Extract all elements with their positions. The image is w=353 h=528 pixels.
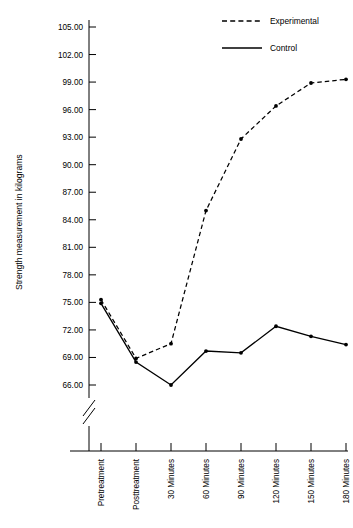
data-point-control [99,301,103,305]
series-layer [99,77,348,386]
y-axis-title-text: Strength measurement in kilograms [14,154,24,290]
y-tick-label: 90.00 [63,161,84,170]
data-point-control [309,334,313,338]
data-point-experimental [344,77,348,81]
data-point-control [204,349,208,353]
data-point-experimental [169,342,173,346]
series-line-experimental [101,79,346,358]
legend-label-experimental: Experimental [270,16,319,26]
y-tick-label: 78.00 [63,271,84,280]
legend-label-control: Control [270,43,297,53]
y-tick-label: 69.00 [63,353,84,362]
data-point-experimental [99,298,103,302]
data-point-experimental [274,104,278,108]
data-point-experimental [239,137,243,141]
x-tick-label: 120 Minutes [272,459,281,504]
y-tick-label: 96.00 [63,106,84,115]
x-tick-label: 60 Minutes [202,459,211,499]
x-tick-label: 90 Minutes [237,459,246,499]
x-axis-ticks: PretreatmentPosttreatment30 Minutes60 Mi… [97,443,351,510]
data-point-experimental [204,209,208,213]
y-tick-label: 87.00 [63,188,84,197]
series-line-control [101,303,346,385]
y-axis-title: Strength measurement in kilograms [14,154,24,290]
data-point-control [134,360,138,364]
data-point-control [344,343,348,347]
y-tick-label: 105.00 [58,23,83,32]
x-tick-label: Posttreatment [132,458,141,510]
y-tick-label: 93.00 [63,133,84,142]
y-tick-label: 75.00 [63,298,84,307]
y-axis-break-icon [83,400,95,424]
data-point-control [239,351,243,355]
x-tick-label: Pretreatment [97,458,106,506]
y-axis-ticks: 66.0069.0072.0075.0078.0081.0084.0087.00… [58,23,96,390]
x-tick-label: 180 Minutes [342,459,351,504]
y-tick-label: 102.00 [58,51,83,60]
y-tick-label: 84.00 [63,216,84,225]
chart-canvas: Strength measurement in kilograms 66.006… [0,0,353,528]
chart-legend: Experimental Control [222,16,319,53]
y-tick-label: 81.00 [63,243,84,252]
line-chart: Strength measurement in kilograms 66.006… [0,0,353,528]
y-tick-label: 66.00 [63,381,84,390]
data-point-control [169,383,173,387]
x-tick-label: 30 Minutes [167,459,176,499]
y-tick-label: 72.00 [63,326,84,335]
x-tick-label: 150 Minutes [307,459,316,504]
y-tick-label: 99.00 [63,78,84,87]
data-point-control [274,324,278,328]
data-point-experimental [309,81,313,85]
